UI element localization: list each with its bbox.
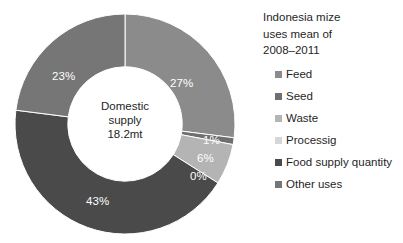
donut-center-label: Domestic supply 18.2mt — [64, 99, 186, 141]
legend-swatch-icon — [275, 71, 282, 78]
chart-plot-area: 27%1%6%0%43%23% Domestic supply 18.2mt — [0, 0, 252, 243]
legend-swatch-icon — [275, 93, 282, 100]
legend-swatch-icon — [275, 137, 282, 144]
center-label-line-3: 18.2mt — [64, 127, 186, 141]
legend-item-label: Food supply quantity — [286, 156, 392, 168]
chart-title: Indonesia mize uses mean of 2008–2011 — [263, 9, 403, 59]
legend-item-label: Processig — [286, 134, 337, 146]
legend-swatch-icon — [275, 115, 282, 122]
legend-item[interactable]: Processig — [275, 132, 403, 149]
legend-items: FeedSeedWasteProcessigFood supply quanti… — [275, 66, 403, 193]
legend-item[interactable]: Seed — [275, 88, 403, 105]
legend-swatch-icon — [275, 181, 282, 188]
slice-value-label: 23% — [52, 71, 75, 83]
legend-item-label: Seed — [286, 90, 313, 102]
legend-swatch-icon — [275, 159, 282, 166]
legend: Indonesia mize uses mean of 2008–2011 Fe… — [252, 0, 403, 243]
center-label-line-2: supply — [64, 113, 186, 127]
chart-title-line-1: Indonesia mize — [263, 9, 403, 26]
legend-item-label: Other uses — [286, 178, 342, 190]
center-label-line-1: Domestic — [64, 99, 186, 113]
slice-value-label: 6% — [197, 153, 214, 165]
chart-title-line-3: 2008–2011 — [263, 42, 403, 59]
legend-item[interactable]: Feed — [275, 66, 403, 83]
chart-title-line-2: uses mean of — [263, 26, 403, 43]
legend-item[interactable]: Other uses — [275, 176, 403, 193]
legend-item[interactable]: Food supply quantity — [275, 154, 403, 171]
legend-item-label: Waste — [286, 112, 318, 124]
legend-item-label: Feed — [286, 68, 312, 80]
slice-value-label: 27% — [170, 78, 193, 90]
slice-value-label: 0% — [190, 171, 207, 183]
slice-value-label: 1% — [203, 135, 220, 147]
donut-chart-figure: 27%1%6%0%43%23% Domestic supply 18.2mt I… — [0, 0, 403, 243]
legend-item[interactable]: Waste — [275, 110, 403, 127]
slice-value-label: 43% — [86, 196, 109, 208]
